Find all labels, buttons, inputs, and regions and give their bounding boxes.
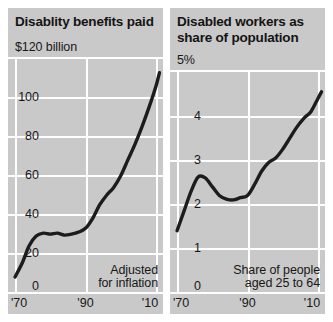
x-axis-tick-label: '90 <box>239 297 255 310</box>
panel-title-right-line1: Disabled workers as <box>177 14 318 30</box>
x-axis-left: '70'90'10 <box>8 292 163 314</box>
panel-title-left: Disablity benefits paid <box>8 8 163 37</box>
annotation-right-line2: aged 25 to 64 <box>233 277 320 291</box>
annotation-left-line1: Adjusted <box>98 264 158 278</box>
x-axis-tick-label: '10 <box>142 297 158 310</box>
x-axis-right: '70'90'10 <box>170 292 325 314</box>
x-axis-tick-label: '70 <box>173 297 189 310</box>
panel-title-right: Disabled workers as share of population <box>170 8 325 50</box>
series-line-disability-benefits <box>8 59 163 293</box>
y-axis-top-label-left: $120 billion <box>8 37 163 57</box>
annotation-left: Adjusted for inflation <box>98 264 158 292</box>
annotation-left-line2: for inflation <box>98 277 158 291</box>
y-axis-top-label-right: 5% <box>170 50 325 70</box>
chart-panel-disabled-workers-share: Disabled workers as share of population … <box>170 8 325 314</box>
x-axis-tick-label: '70 <box>11 297 27 310</box>
series-line-disabled-workers-share <box>170 72 325 293</box>
x-axis-tick-label: '10 <box>304 297 320 310</box>
chart-panel-disability-benefits-paid: Disablity benefits paid $120 billion 020… <box>8 8 163 314</box>
annotation-right: Share of people aged 25 to 64 <box>233 264 320 292</box>
x-axis-tick-label: '90 <box>77 297 93 310</box>
plot-area-right: 01234 Share of people aged 25 to 64 <box>170 70 325 293</box>
plot-area-left: 020406080100 Adjusted for inflation <box>8 57 163 293</box>
two-panel-chart-figure: Disablity benefits paid $120 billion 020… <box>0 0 333 322</box>
annotation-right-line1: Share of people <box>233 264 320 278</box>
panel-title-right-line2: share of population <box>177 30 318 46</box>
